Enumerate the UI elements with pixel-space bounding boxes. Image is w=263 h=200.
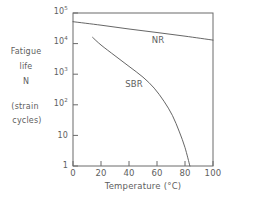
y-axis-title-line-2: life [2, 62, 50, 71]
y-axis-title-line-1: Fatigue [2, 47, 50, 56]
y-tick-exponent: 4 [64, 35, 68, 41]
y-tick-label-100000: 105 [36, 7, 68, 16]
y-tick-mantissa: 10 [57, 131, 68, 140]
y-tick-exponent: 3 [64, 66, 68, 72]
y-tick-exponent: 5 [64, 5, 68, 11]
y-tick-exponent: 2 [64, 97, 68, 103]
series-curve-sbr [93, 37, 190, 166]
plot-frame [73, 13, 213, 166]
y-tick-mantissa: 10 [54, 68, 65, 77]
series-curve-nr [73, 22, 213, 40]
x-tick-label-100: 100 [201, 169, 225, 178]
x-tick-label-80: 80 [173, 169, 197, 178]
y-tick-mantissa: 10 [54, 7, 65, 16]
data-curves [73, 22, 213, 166]
x-axis-title: Temperature (°C) [93, 181, 193, 191]
x-tick-label-0: 0 [61, 169, 85, 178]
x-tick-label-40: 40 [117, 169, 141, 178]
series-label-sbr: SBR [119, 80, 149, 89]
x-tick-label-60: 60 [145, 169, 169, 178]
x-tick-label-20: 20 [89, 169, 113, 178]
y-tick-label-10000: 104 [36, 37, 68, 46]
y-axis-title-line-4: (strain [0, 102, 50, 111]
y-axis-ticks [73, 13, 78, 166]
y-tick-mantissa: 10 [54, 37, 65, 46]
series-label-nr: NR [145, 36, 171, 45]
y-axis-title-line-3: N [2, 77, 50, 86]
y-axis-title-line-5: cycles) [2, 116, 52, 125]
x-axis-ticks [73, 161, 213, 166]
figure: 105 104 103 102 10 1 0 20 40 60 80 100 T… [0, 0, 263, 200]
y-tick-label-10: 10 [36, 131, 68, 140]
y-tick-mantissa: 10 [54, 99, 65, 108]
